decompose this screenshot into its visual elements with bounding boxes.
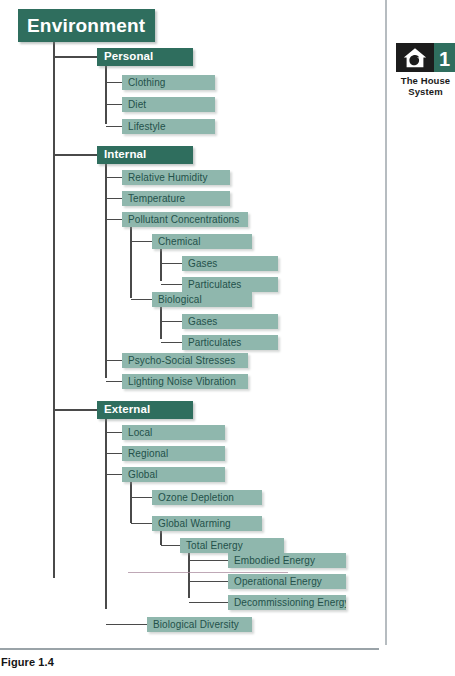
tree-node-lighting: Lighting Noise Vibration — [122, 374, 248, 389]
tree-node-chemical: Chemical — [152, 234, 252, 249]
chapter-badge: 1 The House System — [396, 43, 455, 98]
figure-caption: Figure 1.4 — [1, 656, 54, 668]
figure-container: EnvironmentPersonalClothingDietLifestyle… — [0, 0, 455, 676]
tree-node-global: Global — [122, 467, 225, 482]
caption-divider — [0, 648, 379, 650]
tree-node-internal: Internal — [97, 146, 193, 164]
tree-node-label: Gases — [188, 317, 217, 327]
tree-node-lifestyle: Lifestyle — [122, 119, 215, 134]
scan-artifact-line — [128, 572, 288, 573]
tree-node-label: Total Energy — [186, 541, 243, 551]
tree-node-label: Gases — [188, 259, 217, 269]
tree-node-label: Relative Humidity — [128, 173, 208, 183]
tree-node-label: Ozone Depletion — [158, 493, 234, 503]
tree-node-bio-gases: Gases — [182, 314, 278, 329]
tree-node-external: External — [97, 401, 193, 419]
tree-node-personal: Personal — [97, 48, 193, 66]
tree-node-label: Internal — [104, 149, 146, 161]
tree-node-label: Psycho-Social Stresses — [128, 356, 235, 366]
badge-title-line2: System — [408, 86, 442, 97]
tree-node-label: Pollutant Concentrations — [128, 215, 239, 225]
tree-node-label: Decommissioning Energy — [234, 598, 346, 608]
tree-node-diet: Diet — [122, 97, 215, 112]
page-divider-rule — [385, 0, 387, 645]
svg-text:1: 1 — [439, 48, 450, 70]
tree-node-label: Personal — [104, 51, 153, 63]
tree-node-rel-humidity: Relative Humidity — [122, 170, 230, 185]
tree-node-label: Lifestyle — [128, 122, 166, 132]
tree-node-label: Biological — [158, 295, 202, 305]
tree-node-total-energy: Total Energy — [180, 538, 284, 553]
tree-node-label: External — [104, 404, 150, 416]
tree-node-biological: Biological — [152, 292, 252, 307]
tree-node-label: Biological Diversity — [153, 620, 239, 630]
tree-node-label: Local — [128, 428, 152, 438]
badge-caption: The House System — [396, 76, 455, 98]
tree-node-environment: Environment — [18, 9, 155, 42]
badge-title-line1: The House — [401, 75, 450, 86]
tree-node-label: Particulates — [188, 280, 241, 290]
tree-node-bio-part: Particulates — [182, 335, 278, 350]
tree-node-label: Global — [128, 470, 158, 480]
tree-node-warming: Global Warming — [152, 516, 262, 531]
tree-node-label: Diet — [128, 100, 146, 110]
tree-node-clothing: Clothing — [122, 75, 215, 90]
tree-node-decommission: Decommissioning Energy — [228, 595, 346, 610]
tree-node-label: Particulates — [188, 338, 241, 348]
house-icon: 1 — [396, 43, 455, 72]
tree-node-label: Chemical — [158, 237, 200, 247]
tree-node-label: Regional — [128, 449, 168, 459]
tree-node-label: Global Warming — [158, 519, 231, 529]
tree-node-bio-diversity: Biological Diversity — [147, 617, 252, 632]
tree-node-label: Temperature — [128, 194, 185, 204]
tree-node-local: Local — [122, 425, 225, 440]
tree-node-ozone: Ozone Depletion — [152, 490, 262, 505]
tree-node-psycho: Psycho-Social Stresses — [122, 353, 248, 368]
tree-node-label: Embodied Energy — [234, 556, 315, 566]
tree-node-label: Clothing — [128, 78, 166, 88]
tree-node-label: Operational Energy — [234, 577, 322, 587]
tree-node-chem-gases: Gases — [182, 256, 278, 271]
tree-node-embodied: Embodied Energy — [228, 553, 346, 568]
tree-node-chem-part: Particulates — [182, 277, 278, 292]
tree-node-label: Lighting Noise Vibration — [128, 377, 236, 387]
tree-node-pollutant: Pollutant Concentrations — [122, 212, 248, 227]
tree-node-temperature: Temperature — [122, 191, 230, 206]
tree-node-operational: Operational Energy — [228, 574, 346, 589]
tree-node-regional: Regional — [122, 446, 225, 461]
tree-node-label: Environment — [27, 16, 145, 35]
